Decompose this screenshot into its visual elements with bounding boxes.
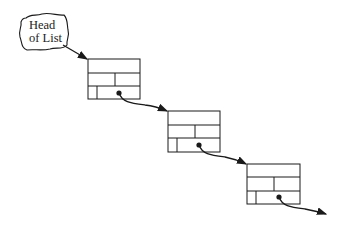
head-of-list-cloud: Head of List	[19, 13, 68, 50]
head-label-line1: Head	[29, 18, 56, 32]
head-pointer-arrow	[63, 45, 87, 59]
linked-list-diagram: Head of List	[0, 0, 345, 226]
list-node-3	[247, 164, 300, 204]
head-label-line2: of List	[29, 31, 63, 45]
list-node-2	[168, 111, 220, 152]
list-node-1	[88, 59, 140, 99]
